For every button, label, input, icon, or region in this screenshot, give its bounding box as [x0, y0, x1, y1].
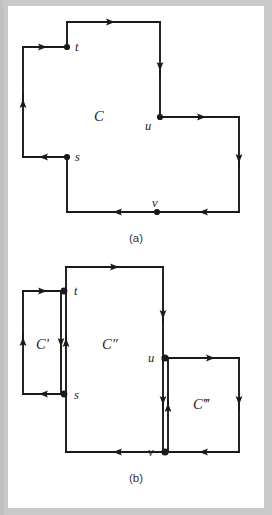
panel-a-diagram: t u s v C (a)	[8, 6, 264, 508]
vertex-dot-s-b	[61, 391, 68, 398]
panel-b-vertices	[61, 288, 169, 456]
label-u-a: u	[145, 119, 151, 133]
page-left-shadow	[0, 0, 4, 515]
label-u-b: u	[148, 351, 154, 365]
vertex-dot-u-a	[157, 114, 163, 120]
label-v-a: v	[152, 196, 158, 210]
vertex-dot-v-b	[161, 448, 168, 455]
label-s-b: s	[74, 388, 79, 402]
page-root: t u s v C (a)	[0, 0, 272, 515]
panel-b-arrowheads	[23, 267, 239, 452]
label-region-c-a: C	[94, 108, 104, 124]
vertex-dot-t-b	[61, 288, 68, 295]
label-region-c-double-prime: C″	[102, 336, 119, 352]
vertex-dot-s-a	[64, 154, 70, 160]
label-region-c-triple-prime: C‴	[193, 396, 210, 412]
label-region-c-prime: C'	[36, 336, 50, 352]
figure-card: t u s v C (a)	[8, 6, 264, 508]
panel-a-labels: t u s v C	[75, 40, 158, 210]
label-t-b: t	[74, 284, 78, 298]
vertex-dot-u-b	[161, 354, 168, 361]
caption-panel-a: (a)	[129, 232, 143, 244]
caption-panel-b: (b)	[129, 472, 143, 484]
label-t-a: t	[75, 40, 79, 54]
panel-b-labels: t s u v C' C″ C‴	[36, 284, 210, 459]
vertex-dot-t-a	[64, 44, 70, 50]
label-s-a: s	[75, 150, 80, 164]
label-v-b: v	[148, 445, 154, 459]
panel-a-arrowheads	[23, 22, 239, 212]
